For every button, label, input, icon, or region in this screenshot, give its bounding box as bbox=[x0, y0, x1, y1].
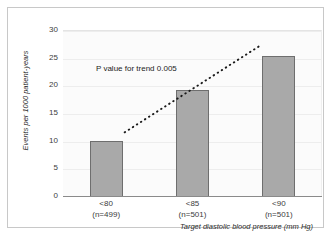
x-axis-line bbox=[63, 196, 322, 197]
y-axis-tick-label: 0 bbox=[38, 191, 58, 201]
x-axis-tick-group: <85(n=501) bbox=[161, 199, 225, 220]
bar bbox=[262, 56, 295, 196]
bar bbox=[176, 90, 209, 196]
x-axis-tick-label: <80 bbox=[74, 199, 138, 210]
x-axis-tick-count: (n=501) bbox=[161, 210, 225, 221]
bar bbox=[90, 141, 123, 196]
y-axis-tick-label: 30 bbox=[38, 25, 58, 35]
y-axis-tick-label: 5 bbox=[38, 163, 58, 173]
y-axis-tick-label: 20 bbox=[38, 80, 58, 90]
x-axis-tick-label: <85 bbox=[161, 199, 225, 210]
y-axis-tick-labels: 051015202530 bbox=[38, 24, 58, 202]
gridline bbox=[63, 31, 321, 32]
x-axis-title: Target diastolic blood pressure (mm Hg) bbox=[180, 222, 313, 231]
x-axis-tick-label: <90 bbox=[247, 199, 311, 210]
p-value-annotation: P value for trend 0.005 bbox=[96, 64, 177, 73]
y-axis-tick-label: 10 bbox=[38, 136, 58, 146]
y-axis-tick-label: 25 bbox=[38, 53, 58, 63]
figure-frame: Events per 1000 patient-years 0510152025… bbox=[7, 7, 324, 228]
plot-area bbox=[63, 30, 322, 196]
x-axis-tick-group: <80(n=499) bbox=[74, 199, 138, 220]
x-axis-tick-count: (n=501) bbox=[247, 210, 311, 221]
x-axis-tick-group: <90(n=501) bbox=[247, 199, 311, 220]
x-axis-tick-count: (n=499) bbox=[74, 210, 138, 221]
y-axis-title: Events per 1000 patient-years bbox=[21, 36, 30, 166]
y-axis-tick-label: 15 bbox=[38, 108, 58, 118]
